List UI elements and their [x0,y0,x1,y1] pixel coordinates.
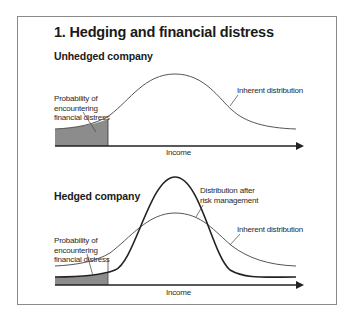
diagram-art [0,0,355,324]
x-axis-arrow-icon [296,281,304,289]
inherent-curve-unhedged [55,74,296,129]
x-axis-arrow-icon [296,142,304,150]
hedged-curve [55,177,296,277]
distress-shade-unhedged [55,119,108,146]
distress-shade-hedged [55,273,108,285]
inherent-curve-hedged [55,213,296,266]
